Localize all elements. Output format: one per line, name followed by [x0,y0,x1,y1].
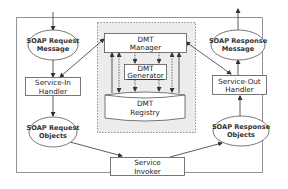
service-invoker-label-2: Invoker [134,167,161,176]
soap-response-objects-label-2: Objects [227,131,255,139]
edge-invoker-to-response-objects [170,143,222,157]
soap-request-objects-label-2: Objects [39,132,67,140]
dmt-generator-label-2: Generator [127,71,164,80]
edge-request-objects-to-invoker [70,142,122,156]
service-out-handler-label-2: Handler [225,85,253,94]
dmt-registry-label-1: DMT [137,99,154,108]
service-out-handler-node: Service-Out Handler [213,76,267,95]
soap-request-message-label-1: SOAP Request [27,37,80,45]
architecture-diagram: DMT Manager DMT Generator DMT Registry S… [0,0,288,189]
soap-response-objects-node: SOAP Response Objects [212,116,271,146]
dmt-registry-label-2: Registry [130,108,160,117]
soap-response-message-label-1: SOAP Response [209,37,268,45]
soap-request-objects-label-1: SOAP Request [27,124,80,132]
soap-request-message-node: SOAP Request Message [27,30,80,60]
dmt-registry-node: DMT Registry [105,92,185,121]
dmt-generator-node: DMT Generator [125,64,167,80]
dmt-manager-label-2: Manager [130,43,162,52]
service-invoker-node: Service Invoker [111,158,185,176]
service-in-handler-label-2: Handler [39,87,67,96]
dmt-manager-node: DMT Manager [105,34,187,53]
soap-response-objects-label-1: SOAP Response [212,123,271,131]
soap-request-message-label-2: Message [37,45,70,53]
soap-response-message-label-2: Message [222,45,255,53]
service-in-handler-node: Service-In Handler [26,78,81,96]
soap-response-message-node: SOAP Response Message [209,30,268,60]
